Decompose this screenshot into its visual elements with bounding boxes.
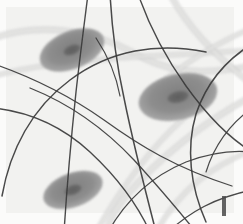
bottom-right-tick-icon <box>222 196 226 216</box>
microscopy-field <box>0 0 243 224</box>
microscopy-image-canvas <box>0 0 243 224</box>
bottom-right-tick <box>222 196 226 216</box>
